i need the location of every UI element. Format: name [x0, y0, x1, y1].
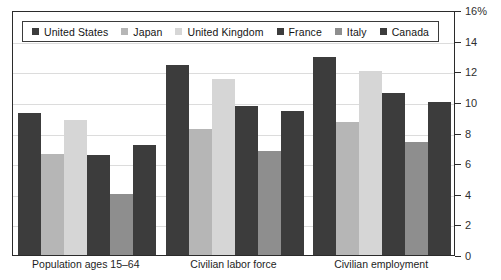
bars-layer — [13, 12, 454, 255]
bar — [382, 93, 405, 255]
bar — [235, 106, 258, 255]
y-axis-tick-mark — [455, 103, 461, 104]
y-axis-tick-label: 16% — [465, 5, 487, 17]
bar — [359, 71, 382, 255]
y-axis-tick-label: 6 — [465, 158, 471, 170]
y-axis: 0246810121416% — [455, 0, 501, 280]
bar — [166, 65, 189, 255]
y-axis-tick-mark — [455, 225, 461, 226]
y-axis-tick-label: 8 — [465, 128, 471, 140]
legend-swatch-icon — [380, 28, 387, 35]
legend-item[interactable]: Italy — [335, 26, 367, 38]
legend-label: France — [289, 26, 322, 38]
plot-area — [12, 11, 455, 256]
chart-legend: United StatesJapanUnited KingdomFranceIt… — [22, 21, 439, 42]
legend-item[interactable]: Japan — [121, 26, 162, 38]
legend-item[interactable]: Canada — [380, 26, 429, 38]
x-axis-category-label: Population ages 15–64 — [32, 258, 139, 270]
legend-swatch-icon — [175, 28, 182, 35]
y-axis-tick-mark — [455, 11, 461, 12]
bar — [87, 155, 110, 255]
legend-label: United States — [44, 26, 108, 38]
bar — [64, 120, 87, 255]
bar — [189, 129, 212, 255]
bar — [405, 142, 428, 255]
bar — [41, 154, 64, 255]
x-axis-labels: Population ages 15–64Civilian labor forc… — [0, 258, 501, 278]
legend-label: Canada — [392, 26, 429, 38]
bar — [336, 122, 359, 255]
bar-chart: 0246810121416% United StatesJapanUnited … — [0, 0, 501, 280]
y-axis-tick-label: 4 — [465, 189, 471, 201]
legend-swatch-icon — [32, 28, 39, 35]
bar — [18, 113, 41, 255]
bar — [212, 79, 235, 255]
y-axis-tick-mark — [455, 164, 461, 165]
legend-swatch-icon — [277, 28, 284, 35]
y-axis-tick-label: 12 — [465, 66, 477, 78]
bar — [281, 111, 304, 255]
bar — [313, 57, 336, 255]
legend-item[interactable]: United States — [32, 26, 108, 38]
y-axis-tick-label: 10 — [465, 97, 477, 109]
y-axis-tick-mark — [455, 42, 461, 43]
legend-label: Italy — [347, 26, 367, 38]
bar — [133, 145, 156, 255]
y-axis-tick-mark — [455, 256, 461, 257]
y-axis-tick-label: 14 — [465, 36, 477, 48]
y-axis-tick-label: 2 — [465, 219, 471, 231]
x-axis-category-label: Civilian labor force — [190, 258, 276, 270]
x-axis-category-label: Civilian employment — [334, 258, 428, 270]
legend-item[interactable]: France — [277, 26, 322, 38]
legend-item[interactable]: United Kingdom — [175, 26, 263, 38]
y-axis-tick-mark — [455, 134, 461, 135]
chart-title-cutoff — [0, 0, 460, 3]
legend-swatch-icon — [121, 28, 128, 35]
legend-label: United Kingdom — [187, 26, 263, 38]
legend-label: Japan — [133, 26, 162, 38]
bar — [110, 194, 133, 255]
y-axis-tick-mark — [455, 72, 461, 73]
bar — [258, 151, 281, 255]
bar — [428, 102, 451, 255]
legend-swatch-icon — [335, 28, 342, 35]
y-axis-tick-mark — [455, 195, 461, 196]
